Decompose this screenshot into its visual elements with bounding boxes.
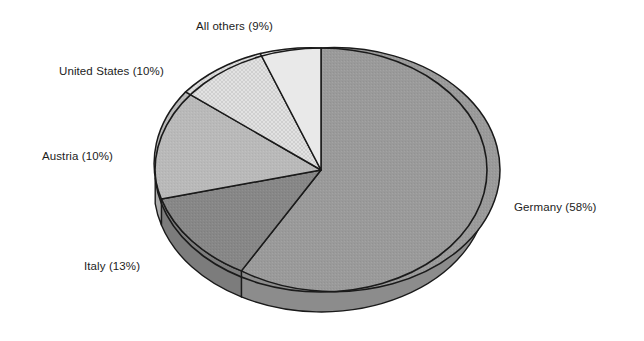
pie-label-germany: Germany (58%) (514, 200, 596, 214)
pie-label-united-states: United States (10%) (59, 64, 164, 78)
pie-label-austria: Austria (10%) (42, 149, 113, 163)
pie-label-italy: Italy (13%) (84, 259, 140, 273)
pie-chart-figure: All others (9%) United States (10%) Aust… (0, 0, 644, 341)
pie-label-all-others: All others (9%) (196, 19, 273, 33)
pie-chart-graphic (0, 0, 644, 341)
